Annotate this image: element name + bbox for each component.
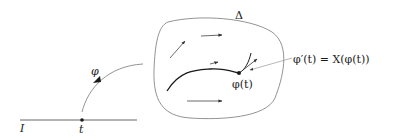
integral-curve-continuation [239, 53, 251, 73]
curve-point-dot [237, 71, 241, 75]
vector-field-arrow [210, 62, 218, 64]
interval-label: I [19, 122, 25, 135]
point-t-dot [80, 118, 84, 122]
vector-field-arrow [170, 41, 185, 58]
integral-curve [167, 69, 239, 91]
integral-curve-diagram: I t φ Δ φ(t) φ′(t) = X(φ(t)) [0, 0, 393, 140]
point-t-label: t [79, 123, 84, 136]
map-label: φ [91, 65, 99, 78]
vector-field-arrow [201, 35, 222, 36]
curve-point-label: φ(t) [232, 78, 253, 91]
ode-equation: φ′(t) = X(φ(t)) [293, 53, 370, 66]
domain-region [154, 18, 284, 119]
domain-label: Δ [235, 9, 243, 22]
